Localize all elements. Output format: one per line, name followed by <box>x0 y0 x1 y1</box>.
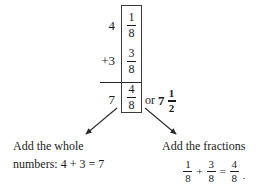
numerator: 4 <box>232 159 238 170</box>
or-label: or <box>145 93 155 108</box>
equation-period: . <box>243 167 246 185</box>
addend-2-fraction: 3 8 <box>122 44 141 78</box>
fraction-3-8: 3 8 <box>127 47 136 74</box>
fraction-column-box: 1 8 3 8 4 8 <box>121 5 142 113</box>
numerator: 3 <box>129 47 135 59</box>
addend-2-whole: +3 <box>60 53 115 69</box>
caption-add-fractions: Add the fractions 1 8 + 3 8 = 4 8 . <box>162 137 263 184</box>
simplified-fraction: 1 2 <box>168 88 176 114</box>
equation-term-a: 1 8 <box>183 159 192 184</box>
caption-left-line-1: Add the whole <box>13 137 143 155</box>
simplified-whole: 7 <box>158 93 165 109</box>
numerator: 1 <box>185 159 191 170</box>
denominator: 8 <box>129 27 135 39</box>
numerator: 4 <box>129 83 135 95</box>
addition-column: 4 +3 7 1 8 3 8 4 <box>0 0 263 120</box>
numerator: 1 <box>169 88 175 99</box>
fraction-equation: 1 8 + 3 8 = 4 8 . <box>162 159 263 184</box>
equation-plus-operator: + <box>196 163 202 180</box>
numerator: 3 <box>208 159 214 170</box>
addend-1-fraction: 1 8 <box>122 8 141 42</box>
sum-whole: 7 <box>60 92 115 108</box>
denominator: 8 <box>232 173 238 184</box>
equation-equals-operator: = <box>220 163 226 180</box>
simplified-answer: or 7 1 2 <box>145 88 176 114</box>
denominator: 8 <box>185 173 191 184</box>
caption-add-whole-numbers: Add the whole numbers: 4 + 3 = 7 <box>13 137 143 173</box>
sum-fraction: 4 8 <box>122 82 141 112</box>
numerator: 1 <box>129 11 135 23</box>
denominator: 8 <box>129 63 135 75</box>
equation-term-b: 3 8 <box>207 159 216 184</box>
equation-term-c: 4 8 <box>230 159 239 184</box>
fraction-4-8: 4 8 <box>127 83 136 110</box>
caption-right-line-1: Add the fractions <box>162 137 263 155</box>
denominator: 8 <box>129 99 135 111</box>
addend-1-whole: 4 <box>60 18 115 34</box>
fraction-1-8: 1 8 <box>127 11 136 38</box>
denominator: 8 <box>208 173 214 184</box>
caption-left-line-2: numbers: 4 + 3 = 7 <box>13 155 143 173</box>
worksheet-diagram: 4 +3 7 1 8 3 8 4 <box>0 0 263 185</box>
denominator: 2 <box>169 103 175 114</box>
